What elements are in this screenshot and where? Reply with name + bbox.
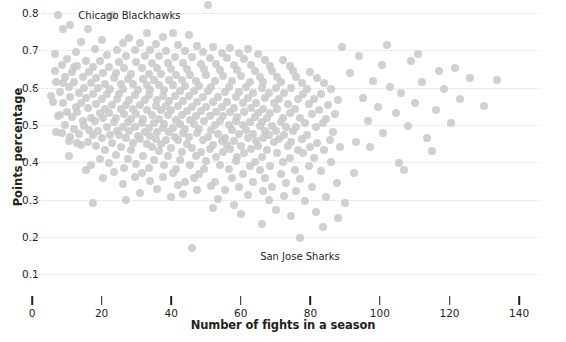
scatter-point bbox=[206, 145, 214, 153]
scatter-point bbox=[273, 149, 281, 157]
scatter-point bbox=[308, 110, 316, 118]
plot-area: Chicago BlackhawksSan Jose Sharks bbox=[32, 0, 540, 291]
scatter-point bbox=[96, 57, 104, 65]
scatter-point bbox=[73, 139, 81, 147]
scatter-point bbox=[120, 164, 128, 172]
scatter-point bbox=[214, 195, 222, 203]
scatter-point bbox=[169, 169, 177, 177]
scatter-point bbox=[400, 166, 408, 174]
scatter-point bbox=[301, 197, 309, 205]
scatter-point bbox=[113, 46, 121, 54]
scatter-point bbox=[277, 170, 285, 178]
scatter-point bbox=[411, 99, 419, 107]
scatter-point bbox=[306, 143, 314, 151]
x-axis-tick-mark bbox=[449, 296, 451, 305]
scatter-point bbox=[174, 181, 182, 189]
scatter-point bbox=[259, 134, 267, 142]
scatter-point bbox=[92, 142, 100, 150]
scatter-point bbox=[317, 167, 325, 175]
scatter-point bbox=[59, 25, 67, 33]
scatter-point bbox=[341, 199, 349, 207]
scatter-point bbox=[286, 109, 294, 117]
scatter-point bbox=[254, 142, 262, 150]
scatter-point bbox=[240, 149, 248, 157]
scatter-point bbox=[287, 212, 295, 220]
scatter-point bbox=[235, 130, 243, 138]
scatter-point bbox=[188, 244, 196, 252]
scatter-point bbox=[317, 90, 325, 98]
scatter-point bbox=[383, 41, 391, 49]
scatter-point bbox=[246, 118, 254, 126]
scatter-point bbox=[265, 196, 273, 204]
scatter-point bbox=[89, 131, 97, 139]
scatter-point bbox=[77, 38, 85, 46]
scatter-point bbox=[350, 169, 358, 177]
scatter-point bbox=[122, 196, 130, 204]
scatter-point bbox=[65, 137, 73, 145]
scatter-point bbox=[334, 214, 342, 222]
scatter-point bbox=[164, 152, 172, 160]
scatter-point bbox=[199, 136, 207, 144]
scatter-point bbox=[202, 157, 210, 165]
scatter-point bbox=[273, 105, 281, 113]
scatter-point bbox=[209, 98, 217, 106]
scatter-point bbox=[70, 63, 78, 71]
scatter-point bbox=[334, 96, 342, 104]
scatter-point bbox=[186, 161, 194, 169]
scatter-point bbox=[279, 158, 287, 166]
scatter-point bbox=[313, 139, 321, 147]
scatter-point bbox=[157, 70, 165, 78]
scatter-point bbox=[378, 61, 386, 69]
scatter-point bbox=[298, 135, 306, 143]
scatter-point bbox=[280, 192, 288, 200]
scatter-point bbox=[414, 50, 422, 58]
x-axis-title: Number of fights in a season bbox=[0, 318, 566, 332]
scatter-point bbox=[397, 89, 405, 97]
scatter-point bbox=[192, 152, 200, 160]
scatter-point bbox=[91, 117, 99, 125]
scatter-point bbox=[259, 187, 267, 195]
scatter-point bbox=[56, 111, 64, 119]
scatter-point bbox=[174, 136, 182, 144]
x-axis-tick-mark bbox=[518, 296, 520, 305]
scatter-point bbox=[125, 34, 133, 42]
scatter-point bbox=[207, 182, 215, 190]
scatter-point bbox=[225, 165, 233, 173]
scatter-point bbox=[223, 54, 231, 62]
scatter-point bbox=[58, 61, 66, 69]
scatter-point bbox=[272, 206, 280, 214]
scatter-point bbox=[428, 147, 436, 155]
scatter-point bbox=[244, 45, 252, 53]
scatter-point bbox=[355, 52, 363, 60]
scatter-point bbox=[308, 183, 316, 191]
scatter-point bbox=[359, 94, 367, 102]
scatter-point bbox=[261, 94, 269, 102]
scatter-point bbox=[106, 131, 114, 139]
scatter-point bbox=[263, 146, 271, 154]
scatter-point bbox=[284, 142, 292, 150]
x-axis-tick-mark bbox=[310, 296, 312, 305]
scatter-point bbox=[103, 123, 111, 131]
scatter-point bbox=[301, 119, 309, 127]
scatter-point bbox=[206, 54, 214, 62]
scatter-point bbox=[61, 121, 69, 129]
scatter-point bbox=[150, 156, 158, 164]
scatter-point bbox=[258, 220, 266, 228]
scatter-point bbox=[159, 173, 167, 181]
scatter-point bbox=[188, 53, 196, 61]
scatter-point bbox=[141, 52, 149, 60]
scatter-point bbox=[209, 43, 217, 51]
scatter-point bbox=[326, 136, 334, 144]
scatter-point bbox=[286, 154, 294, 162]
scatter-point bbox=[171, 53, 179, 61]
scatter-point bbox=[82, 166, 90, 174]
scatter-point bbox=[216, 161, 224, 169]
scatter-point bbox=[305, 162, 313, 170]
scatter-point bbox=[230, 201, 238, 209]
scatter-point bbox=[366, 143, 374, 151]
scatter-point bbox=[221, 88, 229, 96]
scatter-point bbox=[435, 67, 443, 75]
scatter-point bbox=[272, 127, 280, 135]
scatter-point bbox=[249, 178, 257, 186]
scatter-point bbox=[289, 127, 297, 135]
